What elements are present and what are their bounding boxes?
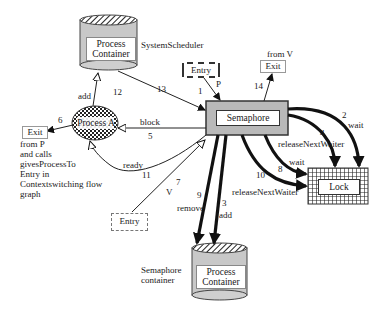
container-label-line2: Container bbox=[199, 277, 243, 287]
edge-11-label: ready bbox=[123, 160, 143, 170]
system-scheduler-caption: SystemScheduler bbox=[141, 40, 204, 50]
caption-line2: container bbox=[141, 275, 182, 285]
edge-1-label: P bbox=[216, 79, 221, 89]
edge-11-num: 11 bbox=[142, 170, 151, 180]
edge-10-num: 10 bbox=[256, 170, 265, 180]
edge-12 bbox=[93, 73, 98, 106]
edge-6-num: 6 bbox=[58, 115, 63, 125]
entry-p-box: Entry bbox=[182, 63, 220, 77]
edge-12-num: 12 bbox=[113, 87, 122, 97]
edge-7-label: V bbox=[166, 187, 173, 197]
container-label-line1: Process bbox=[89, 39, 133, 49]
edge-9-num: 9 bbox=[197, 190, 202, 200]
exit-p-box: Exit bbox=[22, 126, 48, 139]
note-line: Contextswitching flow bbox=[20, 179, 102, 189]
container-label-line2: Container bbox=[89, 49, 133, 59]
edge-8-label: wait bbox=[289, 157, 305, 167]
edge-7-num: 7 bbox=[176, 177, 181, 187]
container-label-line1: Process bbox=[199, 267, 243, 277]
edge-14 bbox=[264, 74, 272, 101]
entry-v-box: Entry bbox=[111, 213, 148, 231]
edge-2-num: 2 bbox=[342, 110, 347, 120]
edge-5-label: block bbox=[140, 117, 160, 127]
process-a-label: Process A bbox=[74, 118, 118, 128]
edge-10-label: releaseNextWaiter bbox=[232, 187, 298, 197]
edge-8-num: 8 bbox=[278, 164, 283, 174]
semaphore-process-container: Process Container bbox=[196, 265, 246, 289]
note-line: Entry in bbox=[20, 169, 102, 179]
semaphore-label: Semaphore bbox=[216, 110, 280, 126]
note-line: and calls bbox=[20, 149, 102, 159]
edge-5-num: 5 bbox=[148, 131, 153, 141]
note-line: givesProcessTo bbox=[20, 159, 102, 169]
edge-3-label: add bbox=[219, 210, 232, 220]
edge-13-num: 13 bbox=[157, 84, 166, 94]
edge-3-num: 3 bbox=[222, 198, 227, 208]
edge-4-label: releaseNextWaiter bbox=[278, 139, 344, 149]
note-line: from P bbox=[20, 139, 102, 149]
edge-12-label: add bbox=[78, 91, 91, 101]
edge-14-num: 14 bbox=[254, 81, 263, 91]
system-scheduler-container: Process Container bbox=[86, 37, 136, 61]
semaphore-container-caption: Semaphore container bbox=[141, 265, 182, 285]
edge-9-label: remove bbox=[177, 203, 204, 213]
edge-6 bbox=[47, 125, 73, 131]
caption-line1: Semaphore bbox=[141, 265, 182, 275]
edge-1-num: 1 bbox=[198, 86, 203, 96]
exit-v-caption: from V bbox=[267, 49, 293, 59]
exit-v-box: Exit bbox=[260, 60, 286, 73]
edge-2-label: wait bbox=[348, 120, 364, 130]
note-line: graph bbox=[20, 189, 102, 199]
exit-p-note: from P and calls givesProcessTo Entry in… bbox=[20, 139, 102, 199]
lock-label: Lock bbox=[318, 179, 360, 195]
edge-4-num: 4 bbox=[320, 128, 325, 138]
